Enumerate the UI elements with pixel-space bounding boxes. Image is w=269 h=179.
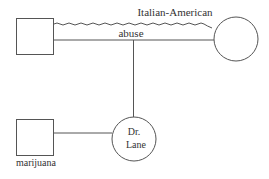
marijuana-label: marijuana bbox=[16, 157, 57, 168]
abuse-label: abuse bbox=[118, 27, 143, 39]
bottom-male-square bbox=[17, 120, 54, 156]
italian-american-label: Italian-American bbox=[137, 6, 213, 18]
top-female-circle bbox=[214, 17, 258, 61]
genogram-diagram: Italian-American abuse Dr. Lane marijuan… bbox=[0, 0, 269, 179]
dr-lane-label-line1: Dr. bbox=[128, 126, 141, 137]
dr-lane-label-line2: Lane bbox=[126, 139, 147, 150]
top-male-square bbox=[17, 19, 54, 55]
